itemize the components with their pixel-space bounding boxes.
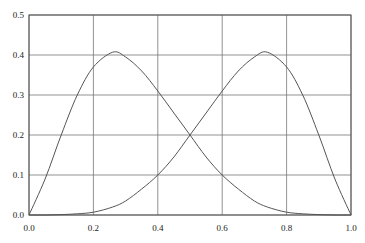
x-tick-label: 0.2 xyxy=(88,223,99,233)
y-tick-label: 0.1 xyxy=(13,170,24,180)
x-tick-label: 0.4 xyxy=(152,223,164,233)
right-curve xyxy=(29,52,351,215)
x-tick-label: 0.0 xyxy=(23,223,35,233)
curves xyxy=(29,52,351,215)
x-tick-label: 1.0 xyxy=(345,223,357,233)
grid-lines xyxy=(29,15,351,215)
x-tick-label: 0.6 xyxy=(217,223,229,233)
left-curve xyxy=(29,52,351,215)
line-chart: 0.00.20.40.60.81.0 0.00.10.20.30.40.5 xyxy=(0,0,365,243)
x-axis-ticks: 0.00.20.40.60.81.0 xyxy=(23,223,357,233)
y-tick-label: 0.0 xyxy=(13,210,25,220)
y-tick-label: 0.4 xyxy=(13,50,25,60)
plot-frame xyxy=(29,15,351,215)
y-tick-label: 0.2 xyxy=(13,130,24,140)
y-axis-ticks: 0.00.10.20.30.40.5 xyxy=(13,10,25,220)
y-tick-label: 0.5 xyxy=(13,10,25,20)
x-tick-label: 0.8 xyxy=(281,223,293,233)
y-tick-label: 0.3 xyxy=(13,90,25,100)
